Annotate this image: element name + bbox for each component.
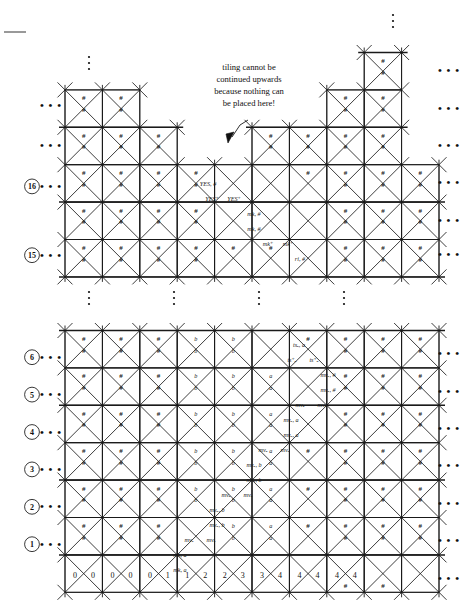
upper-hash-2: # (157, 218, 161, 226)
lower-hash-2: # (381, 459, 385, 467)
lower-hash: # (157, 372, 161, 380)
upper-spur (245, 277, 253, 285)
upper-spur (140, 277, 148, 285)
lower-cell-label: mvₐ (184, 536, 193, 543)
upper-spur (439, 157, 447, 165)
upper-hash: # (119, 169, 123, 177)
upper-spur (327, 277, 335, 285)
upper-spur (289, 277, 297, 285)
lower-letter: b (232, 485, 235, 492)
lower-hash-2: # (119, 347, 123, 355)
lower-spur (252, 323, 260, 331)
upper-hash-2: # (194, 218, 198, 226)
upper-spur (132, 82, 140, 90)
lower-hash: # (381, 372, 385, 380)
lower-hash-2: # (157, 421, 161, 429)
upper-hash-2: # (194, 256, 198, 264)
bottom-digit: 2 (203, 571, 207, 580)
lower-hash: # (344, 522, 348, 530)
upper-spur (252, 277, 260, 285)
lower-spur (215, 592, 223, 600)
right-ellipsis-lower-2: • • • (438, 422, 460, 434)
upper-hash-2: # (82, 218, 86, 226)
upper-spur (439, 165, 447, 173)
annotation-line-3: be placed here! (223, 98, 275, 108)
row-3-text: 3 (30, 465, 34, 474)
upper-hash: # (344, 244, 348, 252)
lower-hash-2: # (344, 384, 348, 392)
upper-spur (394, 45, 402, 53)
vdots-top-right (392, 14, 394, 16)
lower-spur (95, 592, 103, 600)
lower-letter: a (269, 410, 272, 417)
lower-hash: # (82, 335, 86, 343)
lower-cell-label: mvₐ (206, 536, 215, 543)
lower-spur (439, 331, 447, 339)
upper-spur (245, 157, 253, 165)
upper-spur (58, 240, 66, 248)
upper-hash-2: # (119, 181, 123, 189)
lower-cell-label: mvₐ, b (246, 476, 261, 483)
upper-hash-2: # (381, 143, 385, 151)
row-6-text: 6 (30, 353, 34, 362)
lower-hash: # (119, 410, 123, 418)
upper-spur (207, 157, 215, 165)
upper-hash-2: # (82, 256, 86, 264)
lower-spur (439, 518, 447, 526)
upper-spur (319, 120, 327, 128)
lower-hash-2: # (157, 347, 161, 355)
upper-spur (102, 277, 110, 285)
upper-spur (402, 90, 410, 98)
lower-cell-label: mvₐ (280, 446, 289, 453)
lower-letter-2: b (194, 421, 197, 428)
lower-hash: # (82, 522, 86, 530)
upper-cell-label: YES, # (200, 180, 217, 187)
lower-hash: # (306, 485, 310, 493)
lower-spur (439, 510, 447, 518)
lower-spur (65, 323, 73, 331)
lower-spur (215, 323, 223, 331)
lower-hash-2: # (82, 384, 86, 392)
lower-cell-label: ts⁺ₐ (287, 356, 296, 363)
lower-hash-2: # (381, 421, 385, 429)
lower-hash: # (381, 335, 385, 343)
upper-hash-2: # (119, 143, 123, 151)
lower-hash: # (119, 485, 123, 493)
lower-hash-2: # (82, 421, 86, 429)
bottom-digit: 4 (353, 571, 357, 580)
row-15-ellipsis: • • • (40, 249, 62, 261)
lower-hash: # (306, 447, 310, 455)
upper-hash-2: # (306, 143, 310, 151)
upper-hash: # (82, 169, 86, 177)
lower-spur (402, 592, 410, 600)
lower-hash: # (119, 522, 123, 530)
lower-hash-2: # (344, 496, 348, 504)
upper-hash-2: # (381, 106, 385, 114)
row-4-ellipsis: • • • (40, 426, 62, 438)
lower-letter: b (194, 372, 197, 379)
bottom-digit: 0 (73, 571, 77, 580)
upper-spur (402, 82, 410, 90)
lower-hash: # (419, 485, 423, 493)
upper-hash: # (119, 244, 123, 252)
bottom-digit: 0 (91, 571, 95, 580)
lower-spur (439, 547, 447, 555)
upper-hash: # (344, 207, 348, 215)
lower-hash-2: # (381, 534, 385, 542)
upper-hash: # (306, 132, 310, 140)
bottom-digit: 4 (315, 571, 319, 580)
upper-hash: # (82, 132, 86, 140)
upper-spur (402, 53, 410, 61)
lower-spur (439, 480, 447, 488)
upper-spur (364, 277, 372, 285)
upper-hash-2: # (119, 106, 123, 114)
bottom-digit: 1 (166, 571, 170, 580)
upper-hash-2: # (119, 218, 123, 226)
row-16-ellipsis: • • • (40, 180, 62, 192)
lower-hash-2: # (419, 421, 423, 429)
lower-letter: b (232, 522, 235, 529)
bottom-digit: 4 (278, 571, 282, 580)
lower-hash: # (82, 372, 86, 380)
upper-hash: # (381, 94, 385, 102)
lower-hash: # (419, 372, 423, 380)
